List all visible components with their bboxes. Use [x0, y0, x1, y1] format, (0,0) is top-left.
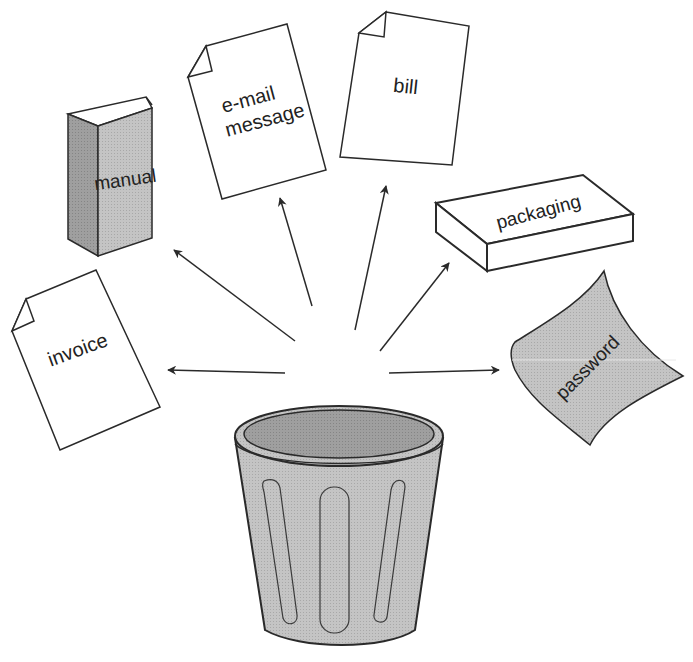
arrow-to-manual: [174, 250, 295, 341]
bill-label: bill: [392, 74, 419, 98]
email-message-item: e-mail message: [188, 24, 326, 199]
manual-item: manual: [68, 97, 157, 256]
arrow-to-invoice: [168, 370, 285, 373]
document-icon: [12, 270, 160, 450]
invoice-item: invoice: [12, 270, 160, 450]
packaging-item: packaging: [436, 175, 633, 271]
arrow-to-email: [280, 198, 312, 306]
arrow-to-password: [389, 370, 499, 373]
password-item: password: [511, 271, 683, 445]
trash-diagram: manual e-mail message bill packaging: [0, 0, 693, 662]
trash-can-icon: [235, 406, 443, 645]
arrow-to-packaging: [380, 263, 449, 351]
bill-item: bill: [340, 12, 469, 165]
arrow-to-bill: [355, 186, 386, 330]
